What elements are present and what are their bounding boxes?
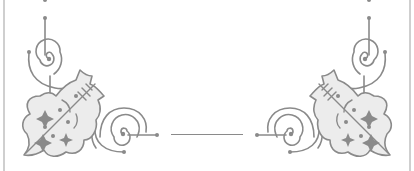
left-corner-ornament (0, 0, 175, 171)
right-corner-ornament (239, 0, 414, 171)
center-divider-rule (171, 134, 243, 135)
ornament-flourish-icon (0, 0, 175, 171)
ornament-flourish-mirrored-icon (239, 0, 414, 171)
